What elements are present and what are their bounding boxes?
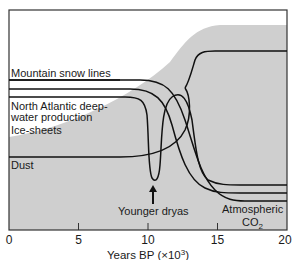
tick-label-20: 20	[278, 233, 292, 247]
paleoclimate-chart: Mountain snow lines North Atlantic deep-…	[0, 0, 297, 260]
tick-label-0: 0	[6, 233, 13, 247]
label-dust: Dust	[11, 159, 34, 171]
x-axis-label: Years BP (×103)	[107, 248, 189, 260]
label-ice-sheets: Ice-sheets	[11, 124, 62, 136]
label-atmospheric: Atmospheric	[222, 203, 284, 215]
tick-label-5: 5	[75, 233, 82, 247]
label-mountain-snow-lines: Mountain snow lines	[11, 67, 111, 79]
tick-label-10: 10	[141, 233, 155, 247]
label-nadw-line2: water production	[10, 111, 92, 123]
label-younger-dryas: Younger dryas	[118, 205, 189, 217]
tick-label-15: 15	[211, 233, 225, 247]
